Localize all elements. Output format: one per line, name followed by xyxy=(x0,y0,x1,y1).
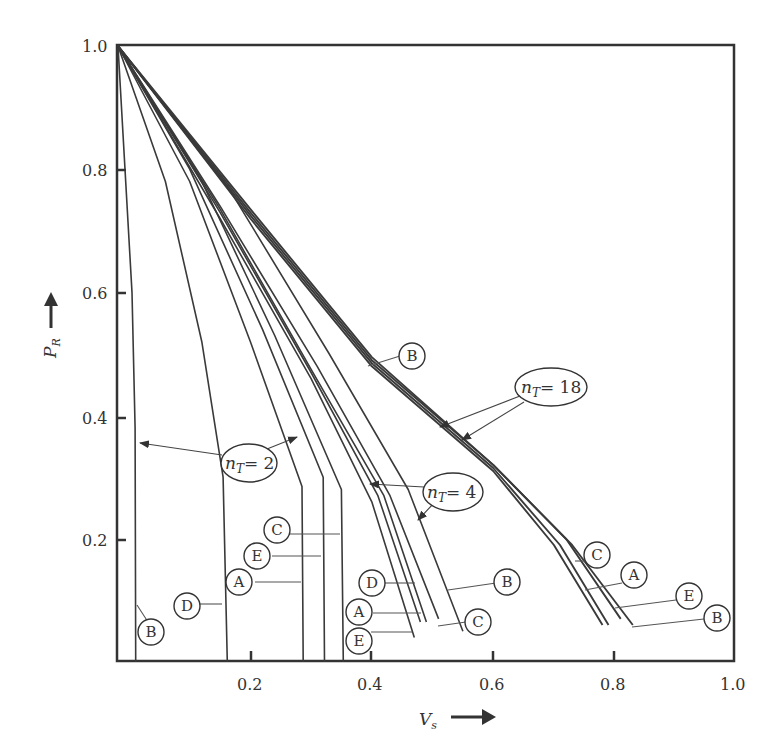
x-ticks xyxy=(251,651,614,661)
y-tick-1.0: 1.0 xyxy=(82,37,107,56)
svg-text:nT= 18: nT= 18 xyxy=(521,377,581,400)
svg-text:Vs: Vs xyxy=(419,709,437,732)
svg-text:A: A xyxy=(233,573,245,591)
annotation-nt4: nT= 4 xyxy=(370,473,483,520)
svg-text:A: A xyxy=(353,603,365,621)
svg-text:D: D xyxy=(366,574,378,592)
svg-text:PR: PR xyxy=(40,338,63,359)
y-axis-title: PR xyxy=(40,292,63,359)
leader-lines xyxy=(137,356,704,632)
label-g18-C: C xyxy=(584,542,610,568)
curve-18-B xyxy=(118,46,633,625)
label-g18-B: B xyxy=(704,605,730,631)
label-g18-A: A xyxy=(621,562,647,588)
x-tick-labels: 0.2 0.4 0.6 0.8 1.0 xyxy=(237,675,745,694)
x-tick-0.2: 0.2 xyxy=(237,675,262,694)
label-g4-B: B xyxy=(494,569,520,595)
curves xyxy=(118,46,633,662)
svg-text:nT= 4: nT= 4 xyxy=(427,482,476,505)
svg-text:E: E xyxy=(252,547,263,565)
chart-svg: 1.0 0.8 0.6 0.4 0.2 0.2 0.4 0.6 0.8 1.0 … xyxy=(0,0,778,756)
x-tick-0.4: 0.4 xyxy=(357,675,382,694)
label-g2-A: A xyxy=(226,569,252,595)
svg-text:B: B xyxy=(711,609,722,627)
label-g18-E: E xyxy=(676,583,702,609)
label-g2-B: B xyxy=(138,619,164,645)
svg-text:A: A xyxy=(628,566,640,584)
x-tick-0.6: 0.6 xyxy=(479,675,504,694)
curve-2-E xyxy=(118,46,325,662)
label-g2-E: E xyxy=(244,543,270,569)
svg-text:B: B xyxy=(145,623,156,641)
curve-2-A xyxy=(118,46,303,662)
label-g4-E: E xyxy=(346,628,372,654)
x-tick-1.0: 1.0 xyxy=(720,675,745,694)
label-g2-C: C xyxy=(264,517,290,543)
y-tick-0.6: 0.6 xyxy=(82,284,107,303)
label-g4-A: A xyxy=(346,599,372,625)
y-tick-0.8: 0.8 xyxy=(82,161,107,180)
curve-18-C xyxy=(118,46,603,625)
curve-18-A xyxy=(118,46,609,625)
x-axis-title: Vs xyxy=(419,709,496,732)
y-tick-0.4: 0.4 xyxy=(82,409,107,428)
svg-text:B: B xyxy=(406,347,417,365)
y-tick-labels: 1.0 0.8 0.6 0.4 0.2 xyxy=(82,37,107,550)
label-g2-D: D xyxy=(174,593,200,619)
y-ticks xyxy=(117,170,126,540)
label-g4-C: C xyxy=(465,609,491,635)
curve-2-B xyxy=(118,46,136,662)
svg-text:E: E xyxy=(354,632,365,650)
svg-text:B: B xyxy=(501,573,512,591)
svg-text:C: C xyxy=(271,521,282,539)
svg-text:C: C xyxy=(472,613,483,631)
svg-text:D: D xyxy=(181,597,193,615)
curve-18-E xyxy=(118,46,621,619)
x-tick-0.8: 0.8 xyxy=(600,675,625,694)
y-tick-0.2: 0.2 xyxy=(82,531,107,550)
label-g4-D: D xyxy=(359,570,385,596)
svg-text:C: C xyxy=(591,546,602,564)
svg-text:E: E xyxy=(684,587,695,605)
label-g18-B-top: B xyxy=(399,343,425,369)
annotation-nt18: nT= 18 xyxy=(440,368,587,440)
svg-text:nT= 2: nT= 2 xyxy=(225,453,274,476)
